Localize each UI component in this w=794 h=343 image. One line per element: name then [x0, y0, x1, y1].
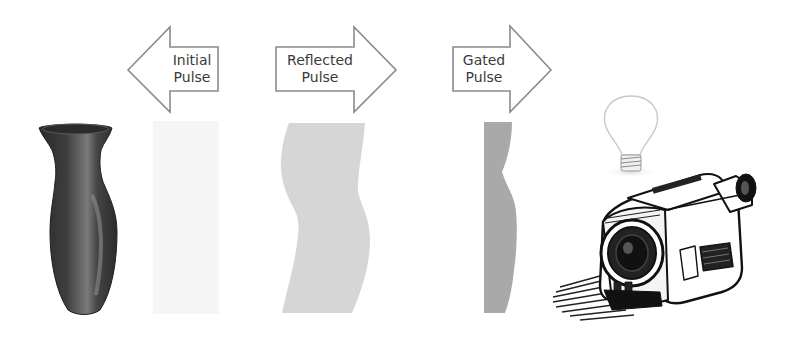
reflected-pulse-label: Reflected Pulse	[276, 52, 364, 86]
initial-pulse-label-line1: Initial	[164, 52, 220, 69]
gated-pulse-label: Gated Pulse	[453, 52, 515, 86]
initial-pulse-label: Initial Pulse	[164, 52, 220, 86]
reflected-pulse-label-line2: Pulse	[276, 69, 364, 86]
initial-pulse-label-line2: Pulse	[164, 69, 220, 86]
vase-icon	[39, 124, 117, 315]
camcorder-icon	[553, 174, 756, 320]
gated-pulse-shape	[484, 122, 517, 313]
reflected-pulse-shape	[281, 123, 370, 313]
reflected-pulse-label-line1: Reflected	[276, 52, 364, 69]
gated-pulse-label-line2: Pulse	[453, 69, 515, 86]
initial-pulse-shape	[153, 121, 219, 314]
light-bulb-icon	[603, 96, 659, 178]
gated-pulse-label-line1: Gated	[453, 52, 515, 69]
diagram-canvas	[0, 0, 794, 343]
